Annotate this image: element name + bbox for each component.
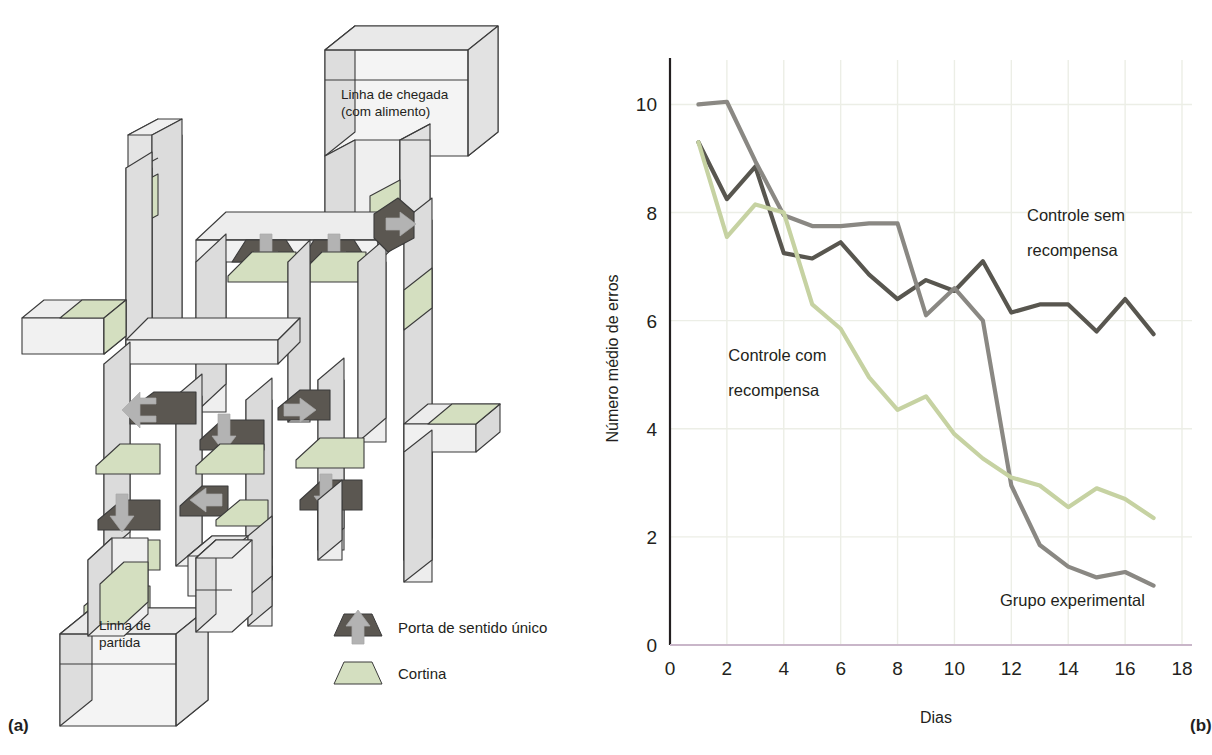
- errors-per-day-line-chart: 0246810121416180246810 Controle semrecom…: [590, 0, 1192, 755]
- panel-a-letter: (a): [8, 716, 29, 736]
- y-axis-title: Número médio de erros: [604, 274, 621, 442]
- series-annotation: Controle sem: [1027, 206, 1125, 224]
- series-line-1: [698, 142, 1153, 334]
- x-tick-label: 10: [944, 658, 965, 679]
- x-tick-label: 8: [892, 658, 903, 679]
- panel-a-maze: Linha de chegada (com alimento) Linha de…: [0, 0, 590, 755]
- series-annotation: recompensa: [1027, 241, 1119, 259]
- series-annotation: Controle com: [728, 346, 826, 364]
- maze-right-bottom-wall: [404, 430, 432, 582]
- x-tick-label: 4: [778, 658, 789, 679]
- maze-start-label-line2: partida: [99, 635, 140, 650]
- panel-b-letter: (b): [1190, 716, 1212, 736]
- maze-door-right-2: [278, 390, 330, 422]
- series-annotation: Grupo experimental: [1000, 591, 1145, 609]
- one-way-door-icon: [330, 606, 384, 648]
- maze-start-label: Linha de partida: [99, 617, 151, 651]
- series-annotation: recompensa: [728, 381, 820, 399]
- maze-legend: Porta de sentido único Cortina: [330, 604, 580, 696]
- maze-finish-label-line2: (com alimento): [341, 104, 430, 119]
- y-tick-label: 2: [646, 527, 657, 548]
- maze-finish-label-line1: Linha de chegada: [341, 87, 448, 102]
- legend-label-one-way-door: Porta de sentido único: [398, 619, 547, 636]
- y-tick-label: 10: [636, 94, 657, 115]
- series-line-2: [698, 102, 1153, 586]
- y-tick-label: 0: [646, 635, 657, 656]
- maze-left-arm: [22, 300, 126, 354]
- legend-item-one-way-door: Porta de sentido único: [330, 604, 580, 650]
- y-tick-label: 4: [646, 419, 657, 440]
- y-tick-label: 8: [646, 203, 657, 224]
- chart-series-lines: [698, 102, 1153, 586]
- panel-b-chart: 0246810121416180246810 Controle semrecom…: [590, 0, 1192, 755]
- x-tick-label: 2: [722, 658, 733, 679]
- legend-label-curtain: Cortina: [398, 665, 446, 682]
- legend-item-curtain: Cortina: [330, 650, 580, 696]
- maze-finish-label: Linha de chegada (com alimento): [341, 86, 448, 120]
- y-tick-label: 6: [646, 311, 657, 332]
- curtain-icon: [330, 652, 384, 694]
- x-tick-label: 6: [835, 658, 846, 679]
- x-tick-label: 12: [1001, 658, 1022, 679]
- x-tick-label: 14: [1058, 658, 1080, 679]
- x-tick-label: 16: [1115, 658, 1136, 679]
- maze-start-label-line1: Linha de: [99, 618, 151, 633]
- maze-door-left-1: [122, 392, 196, 428]
- maze-small-box-right-of-start: [196, 540, 252, 632]
- x-tick-label: 18: [1171, 658, 1192, 679]
- maze-slab-center: [126, 318, 300, 364]
- x-tick-label: 0: [665, 658, 676, 679]
- x-axis-title: Dias: [920, 709, 952, 726]
